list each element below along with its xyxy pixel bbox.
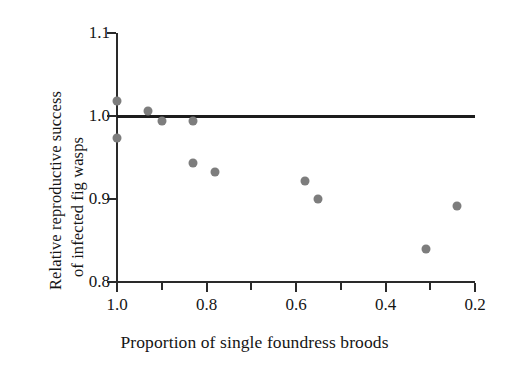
x-tick-1-0 bbox=[116, 283, 118, 292]
x-tick-label-1-0: 1.0 bbox=[106, 296, 127, 314]
x-tick-label-0-4: 0.4 bbox=[375, 296, 396, 314]
data-point bbox=[144, 107, 153, 116]
x-minor-tick-0-3 bbox=[429, 283, 431, 290]
reference-line-at-1 bbox=[117, 115, 475, 118]
y-tick-label-1-1: 1.1 bbox=[64, 24, 110, 41]
x-tick-label-0-2: 0.2 bbox=[464, 296, 485, 314]
x-tick-0-4 bbox=[385, 283, 387, 292]
x-minor-tick-0-7 bbox=[250, 283, 252, 290]
y-axis-line bbox=[116, 33, 118, 282]
x-tick-0-6 bbox=[295, 283, 297, 292]
data-point bbox=[421, 244, 430, 253]
y-tick-0-8 bbox=[107, 281, 116, 283]
x-tick-label-0-6: 0.6 bbox=[285, 296, 306, 314]
y-tick-0-9 bbox=[107, 198, 116, 200]
y-tick-label-1-0: 1.0 bbox=[64, 107, 110, 124]
data-point bbox=[113, 97, 122, 106]
scatter-plot-figure: Relative reproductive success of infecte… bbox=[0, 0, 509, 370]
x-axis-tick-labels: 1.00.80.60.40.2 bbox=[0, 296, 509, 320]
y-tick-label-0-8: 0.8 bbox=[64, 273, 110, 290]
data-point bbox=[189, 116, 198, 125]
y-tick-1-1 bbox=[107, 32, 116, 34]
x-minor-tick-0-5 bbox=[340, 283, 342, 290]
data-point bbox=[189, 159, 198, 168]
y-tick-1-0 bbox=[107, 115, 116, 117]
x-tick-0-2 bbox=[474, 283, 476, 292]
x-axis-title: Proportion of single foundress broods bbox=[0, 332, 509, 353]
y-axis-tick-labels: 1.11.00.90.8 bbox=[62, 0, 110, 300]
data-point bbox=[300, 176, 309, 185]
data-point bbox=[314, 195, 323, 204]
data-point bbox=[113, 133, 122, 142]
plot-area bbox=[117, 33, 475, 282]
x-minor-tick-0-9 bbox=[161, 283, 163, 290]
y-tick-label-0-9: 0.9 bbox=[64, 190, 110, 207]
x-tick-label-0-8: 0.8 bbox=[196, 296, 217, 314]
data-point bbox=[453, 202, 462, 211]
data-point bbox=[157, 116, 166, 125]
data-point bbox=[211, 168, 220, 177]
x-tick-0-8 bbox=[206, 283, 208, 292]
